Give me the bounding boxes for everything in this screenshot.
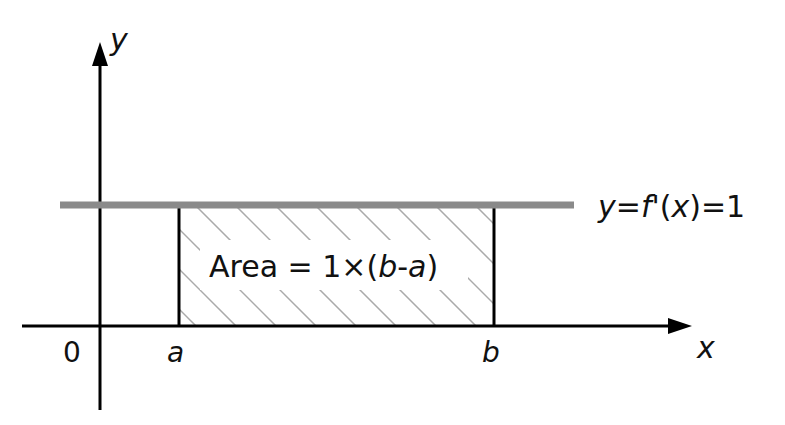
origin-label: 0: [63, 336, 81, 369]
eq-x: x: [670, 189, 689, 224]
y-axis-arrow-icon: [92, 42, 108, 66]
area-suffix: ): [426, 249, 438, 284]
eq-y: y: [597, 189, 617, 224]
diagram-svg: y x 0 a b y=f'(x)=1 Area = 1×(b-a): [0, 0, 785, 425]
eq-equals: =: [616, 189, 641, 224]
x-axis-arrow-icon: [668, 318, 692, 334]
area-dash: -: [397, 249, 408, 284]
x-axis-label: x: [696, 330, 715, 365]
y-axis-label: y: [109, 22, 129, 57]
integral-area-diagram: y x 0 a b y=f'(x)=1 Area = 1×(b-a): [0, 0, 785, 425]
eq-rest: )=1: [689, 189, 745, 224]
line-equation-label: y=f'(x)=1: [597, 189, 745, 224]
eq-prime: '(: [651, 189, 671, 224]
point-a-label: a: [167, 336, 184, 369]
area-a: a: [408, 249, 426, 284]
area-formula-label: Area = 1×(b-a): [209, 249, 438, 284]
area-prefix: Area = 1×(: [209, 249, 378, 284]
point-b-label: b: [482, 336, 500, 369]
area-b: b: [378, 249, 397, 284]
